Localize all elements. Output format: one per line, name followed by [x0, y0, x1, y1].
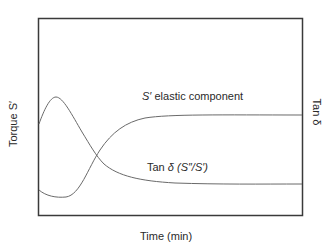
y-axis-label-left: Torque S′ — [8, 101, 19, 147]
tan-text: Tan — [147, 161, 168, 173]
y-axis-label-right: Tan δ — [311, 99, 322, 126]
elastic-text: elastic component — [151, 90, 243, 102]
elastic-symbol: S′ — [142, 90, 151, 102]
plot-frame — [39, 19, 303, 216]
elastic-component-curve — [39, 115, 302, 197]
chart-canvas — [0, 0, 331, 244]
x-axis-label: Time (min) — [140, 231, 192, 242]
tan-ratio: (S″/S′) — [174, 161, 208, 173]
tan-delta-annotation: Tan δ (S″/S′) — [147, 162, 208, 173]
elastic-component-annotation: S′ elastic component — [142, 91, 243, 102]
